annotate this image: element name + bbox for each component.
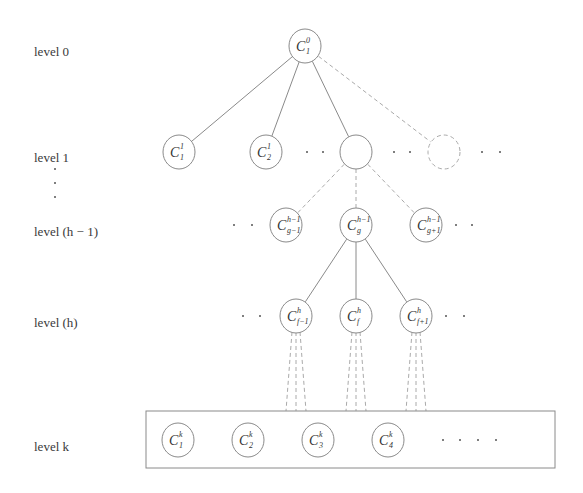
fan-edge xyxy=(346,332,352,411)
edge xyxy=(305,239,346,302)
node-label: C xyxy=(347,218,357,233)
node-label: C xyxy=(257,145,267,160)
node-superscript: h−1 xyxy=(287,215,300,224)
edge xyxy=(365,239,406,302)
node-subscript: g−1 xyxy=(287,226,300,235)
node-superscript: h xyxy=(357,306,361,315)
node-subscript: g xyxy=(357,226,361,235)
node-label: C xyxy=(379,433,389,448)
node-subscript: 2 xyxy=(249,441,253,450)
node-subscript: 2 xyxy=(267,153,271,162)
ellipsis-dot xyxy=(251,224,253,226)
ellipsis-dot xyxy=(499,151,501,153)
edge xyxy=(312,61,348,136)
node-subscript: 4 xyxy=(389,441,393,450)
node-label: C xyxy=(277,218,287,233)
node-subscript: g+1 xyxy=(427,226,440,235)
node-circle xyxy=(428,135,460,169)
node-subscript: 1 xyxy=(179,441,183,450)
edge xyxy=(298,164,344,212)
ellipsis-dot xyxy=(455,224,457,226)
ellipsis-dot xyxy=(471,224,473,226)
node-superscript: 1 xyxy=(180,142,184,151)
fan-edge xyxy=(286,332,292,411)
ellipsis-dot xyxy=(409,151,411,153)
tree-diagram: C01C11C12Ch−1g−1Ch−1gCh−1g+1Chf−1ChfChf+… xyxy=(0,0,583,493)
node-subscript: f−1 xyxy=(297,317,309,326)
node-superscript: h xyxy=(417,306,421,315)
fan-edge xyxy=(420,332,426,411)
node-superscript: 1 xyxy=(267,142,271,151)
edge xyxy=(192,57,292,141)
ellipsis-dot xyxy=(481,151,483,153)
node-label: C xyxy=(407,309,417,324)
node-label: C xyxy=(239,433,249,448)
ellipsis-dot xyxy=(393,151,395,153)
vertical-ellipsis-dot xyxy=(54,182,56,184)
ellipsis-dot xyxy=(442,439,444,441)
ellipsis-dot xyxy=(242,315,244,317)
node-superscript: h−1 xyxy=(357,215,370,224)
node-label: C xyxy=(170,145,180,160)
node-label: C xyxy=(296,39,306,54)
vertical-ellipsis-dot xyxy=(54,196,56,198)
fan-edge xyxy=(406,332,412,411)
node-subscript: 1 xyxy=(180,153,184,162)
fan-edge xyxy=(300,332,306,411)
node-superscript: h−1 xyxy=(427,215,440,224)
ellipsis-dot xyxy=(459,439,461,441)
node-superscript: k xyxy=(249,430,253,439)
node-circle xyxy=(340,135,372,169)
fan-edge xyxy=(360,332,366,411)
node-label: C xyxy=(169,433,179,448)
node-superscript: k xyxy=(319,430,323,439)
node-label: C xyxy=(347,309,357,324)
edge xyxy=(319,56,431,141)
ellipsis-dot xyxy=(463,315,465,317)
ellipsis-dot xyxy=(495,439,497,441)
vertical-ellipsis-dot xyxy=(54,168,56,170)
ellipsis-dot xyxy=(233,224,235,226)
ellipsis-dot xyxy=(322,151,324,153)
node-superscript: k xyxy=(179,430,183,439)
level-k-box xyxy=(146,411,555,468)
ellipsis-dot xyxy=(445,315,447,317)
node-superscript: 0 xyxy=(306,36,310,45)
node-superscript: h xyxy=(297,306,301,315)
node-subscript: f+1 xyxy=(417,317,429,326)
ellipsis-dot xyxy=(477,439,479,441)
node-label: C xyxy=(417,218,427,233)
node-subscript: 1 xyxy=(306,47,310,56)
node-superscript: k xyxy=(389,430,393,439)
edge xyxy=(272,62,299,136)
edge xyxy=(368,164,414,212)
node-label: C xyxy=(287,309,297,324)
node-label: C xyxy=(309,433,319,448)
node-subscript: 3 xyxy=(318,441,323,450)
ellipsis-dot xyxy=(306,151,308,153)
ellipsis-dot xyxy=(259,315,261,317)
